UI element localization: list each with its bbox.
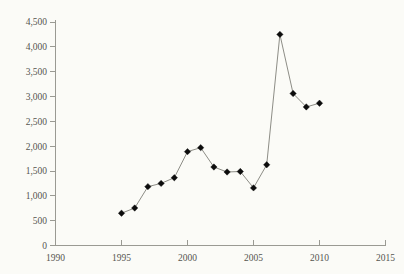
x-axis-group: 199019952000200520102015 xyxy=(46,240,395,263)
series-line-1 xyxy=(122,34,320,213)
y-tick-label: 2,500 xyxy=(26,117,48,127)
y-tick-label: 4,000 xyxy=(26,42,48,52)
x-tick-label: 2005 xyxy=(244,253,263,263)
data-point-marker xyxy=(145,183,151,189)
x-tick-label: 2015 xyxy=(376,253,395,263)
data-point-marker xyxy=(224,169,230,175)
y-axis-group: 05001,0001,5002,0002,5003,0003,5004,0004… xyxy=(26,17,56,251)
series-marker-group xyxy=(118,31,322,216)
x-tick-label: 1990 xyxy=(46,253,65,263)
y-tick-label: 0 xyxy=(42,241,47,251)
data-point-marker xyxy=(198,144,204,150)
data-point-marker xyxy=(171,175,177,181)
y-tick-label: 1,500 xyxy=(26,166,48,176)
y-tick-label: 3,500 xyxy=(26,67,48,77)
data-point-marker xyxy=(277,31,283,37)
plot-area xyxy=(118,31,322,216)
line-chart: 05001,0001,5002,0002,5003,0003,5004,0004… xyxy=(0,0,404,274)
x-tick-label: 2000 xyxy=(178,253,197,263)
data-point-marker xyxy=(184,148,190,154)
x-tick-label: 1995 xyxy=(112,253,131,263)
y-tick-label: 2,000 xyxy=(26,142,48,152)
x-tick-group: 199019952000200520102015 xyxy=(46,240,395,263)
x-tick-label: 2010 xyxy=(310,253,329,263)
data-point-marker xyxy=(316,100,322,106)
y-tick-label: 4,500 xyxy=(26,17,48,27)
data-point-marker xyxy=(118,210,124,216)
data-point-marker xyxy=(158,180,164,186)
y-tick-label: 3,000 xyxy=(26,92,48,102)
chart-container: 05001,0001,5002,0002,5003,0003,5004,0004… xyxy=(0,0,404,274)
y-tick-group: 05001,0001,5002,0002,5003,0003,5004,0004… xyxy=(26,17,56,251)
data-point-marker xyxy=(211,164,217,170)
y-tick-label: 500 xyxy=(33,216,48,226)
data-point-marker xyxy=(264,162,270,168)
y-tick-label: 1,000 xyxy=(26,191,48,201)
data-point-marker xyxy=(132,205,138,211)
